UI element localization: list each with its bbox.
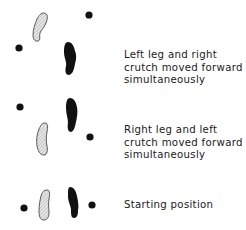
- step-1-caption: Left leg and right crutch moved forward …: [124, 49, 243, 87]
- caption-line: crutch moved forward: [124, 62, 243, 75]
- caption-line: simultaneously: [124, 149, 243, 162]
- left-foot-hatched-icon: [33, 13, 47, 41]
- right-foot-black-icon: [68, 187, 78, 218]
- crutch-tip-icon: [20, 204, 27, 211]
- step-2-caption: Right leg and left crutch moved forward …: [124, 124, 243, 162]
- crutch-tip-icon: [15, 44, 22, 51]
- step-3-caption: Starting position: [124, 199, 213, 212]
- crutch-tip-icon: [85, 11, 92, 18]
- right-foot-black-icon: [64, 42, 76, 75]
- crutch-tip-icon: [86, 133, 93, 140]
- crutch-tip-icon: [16, 103, 23, 110]
- caption-line: simultaneously: [124, 74, 243, 87]
- caption-line: Left leg and right: [124, 49, 243, 62]
- crutch-tip-icon: [88, 201, 95, 208]
- left-foot-hatched-icon: [37, 123, 48, 155]
- step-3-footprints: [20, 187, 95, 220]
- step-2-footprints: [16, 98, 93, 155]
- caption-line: Right leg and left: [124, 124, 243, 137]
- left-foot-hatched-icon: [39, 190, 50, 220]
- caption-line: crutch moved forward: [124, 137, 243, 150]
- right-foot-black-icon: [66, 98, 77, 132]
- caption-line: Starting position: [124, 199, 213, 212]
- step-1-footprints: [15, 11, 92, 75]
- gait-diagram: [0, 0, 246, 230]
